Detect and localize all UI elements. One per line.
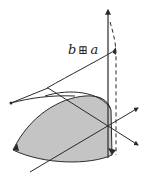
label-point-marker — [112, 47, 116, 55]
shaded-region — [13, 96, 112, 162]
label-left-operand: b — [68, 42, 76, 57]
operation-label: b⊞a — [68, 43, 98, 56]
label-right-operand: a — [90, 42, 98, 57]
left-line-upper — [11, 88, 48, 103]
label-operator: ⊞ — [78, 43, 88, 57]
tangent-curve — [47, 52, 112, 88]
geometric-diagram — [0, 0, 153, 181]
